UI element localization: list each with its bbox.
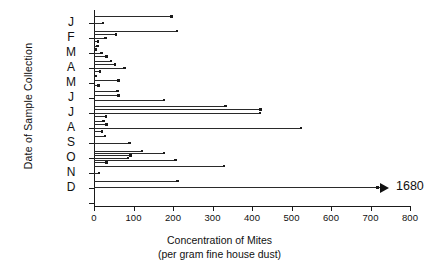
bar-endpoint-marker <box>100 52 103 55</box>
bar-endpoint-marker <box>114 63 117 66</box>
bar-endpoint-marker <box>376 186 379 189</box>
x-axis-tick-label: 300 <box>193 212 233 223</box>
bar <box>94 151 142 152</box>
x-axis-tick <box>410 206 411 211</box>
bar-endpoint-marker <box>128 142 131 145</box>
y-axis-tick <box>89 203 94 204</box>
bar <box>94 113 260 114</box>
bar-endpoint-marker <box>101 130 104 133</box>
x-axis-tick <box>173 206 174 211</box>
x-axis-tick-label: 800 <box>390 212 430 223</box>
x-axis-tick <box>252 206 253 211</box>
x-axis-tick <box>331 206 332 211</box>
bar-endpoint-marker <box>141 150 144 153</box>
bar <box>94 187 380 188</box>
bar-endpoint-marker <box>94 75 97 78</box>
bar-endpoint-marker <box>259 112 262 115</box>
bar <box>94 166 224 167</box>
y-axis-month-label: J <box>60 105 82 119</box>
bar-endpoint-marker <box>129 154 132 157</box>
y-axis-month-label: O <box>60 150 82 164</box>
y-axis-month-label: N <box>60 165 82 179</box>
bar <box>94 106 225 107</box>
x-axis-tick-label: 400 <box>232 212 272 223</box>
bar-endpoint-marker <box>105 115 108 118</box>
bar <box>94 91 117 92</box>
bar-endpoint-marker <box>102 120 105 123</box>
bar <box>94 95 118 96</box>
bar-endpoint-marker <box>117 94 120 97</box>
offscale-arrow-icon <box>380 183 389 193</box>
bar <box>94 155 130 156</box>
y-axis-month-label: S <box>60 135 82 149</box>
bar <box>94 158 128 159</box>
bar-endpoint-marker <box>96 45 99 48</box>
bar-endpoint-marker <box>110 60 113 63</box>
bar <box>94 143 129 144</box>
bar <box>94 100 164 101</box>
bar-endpoint-marker <box>98 172 101 175</box>
x-axis-tick-label: 500 <box>272 212 312 223</box>
bar-endpoint-marker <box>116 90 119 93</box>
bar-endpoint-marker <box>105 55 108 58</box>
bar-endpoint-marker <box>300 127 303 130</box>
x-axis-tick <box>371 206 372 211</box>
bar <box>94 181 177 182</box>
bar <box>94 64 115 65</box>
y-axis-month-label: D <box>60 180 82 194</box>
bar-endpoint-marker <box>259 108 262 111</box>
x-axis-tick <box>134 206 135 211</box>
y-axis-month-label: A <box>60 60 82 74</box>
bar-endpoint-marker <box>127 157 130 160</box>
bar <box>94 34 116 35</box>
x-axis-tick-label: 200 <box>153 212 193 223</box>
bar-endpoint-marker <box>97 40 100 43</box>
y-axis-month-label: M <box>60 75 82 89</box>
y-axis-title: Date of Sample Collection <box>22 6 34 206</box>
bar-endpoint-marker <box>224 105 227 108</box>
x-axis-tick <box>213 206 214 211</box>
y-axis-month-label: J <box>60 90 82 104</box>
bar-endpoint-marker <box>163 99 166 102</box>
bar <box>94 128 301 129</box>
offscale-value-label: 1680 <box>396 179 424 193</box>
y-axis-month-label: A <box>60 120 82 134</box>
chart-figure: Date of Sample Collection JFMAMJJASOND 0… <box>0 0 439 280</box>
bar-endpoint-marker <box>104 37 107 40</box>
bar-endpoint-marker <box>223 165 226 168</box>
y-axis-month-label: M <box>60 45 82 59</box>
x-axis-tick-label: 600 <box>311 212 351 223</box>
bar <box>94 61 111 62</box>
bar <box>94 16 171 17</box>
bar-endpoint-marker <box>95 48 98 51</box>
bar <box>94 80 118 81</box>
x-axis-tick-label: 100 <box>114 212 154 223</box>
x-axis-tick-label: 700 <box>351 212 391 223</box>
y-axis-month-label: F <box>60 30 82 44</box>
bar-endpoint-marker <box>102 22 105 25</box>
x-axis-tick-label: 0 <box>74 212 114 223</box>
bar-endpoint-marker <box>170 15 173 18</box>
bar-endpoint-marker <box>176 30 179 33</box>
bar-endpoint-marker <box>104 135 107 138</box>
bar-endpoint-marker <box>176 180 179 183</box>
bar-endpoint-marker <box>105 123 108 126</box>
bar-endpoint-marker <box>105 161 108 164</box>
bar-endpoint-marker <box>99 70 102 73</box>
bar <box>94 68 124 69</box>
bar <box>94 109 260 110</box>
bar-endpoint-marker <box>97 84 100 87</box>
bar-endpoint-marker <box>123 67 126 70</box>
y-axis-month-label: J <box>60 15 82 29</box>
bar-endpoint-marker <box>115 33 118 36</box>
bar-endpoint-marker <box>174 159 177 162</box>
x-axis-tick <box>292 206 293 211</box>
y-axis-line <box>94 10 95 206</box>
x-axis-title: Concentration of Mites (per gram fine ho… <box>0 233 439 261</box>
x-axis-tick <box>94 206 95 211</box>
x-axis-title-line2: (per gram fine house dust) <box>0 247 439 261</box>
bar-endpoint-marker <box>163 152 166 155</box>
bar <box>94 31 177 32</box>
x-axis-title-line1: Concentration of Mites <box>0 233 439 247</box>
bar-endpoint-marker <box>117 79 120 82</box>
